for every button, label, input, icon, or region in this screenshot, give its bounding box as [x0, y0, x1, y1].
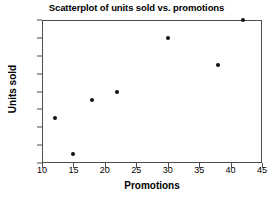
x-axis-title: Promotions [42, 180, 262, 192]
data-point [90, 98, 94, 102]
data-point [216, 63, 220, 67]
plot-data-area [42, 20, 262, 163]
x-tick-mark-25 [136, 163, 137, 168]
x-tick-mark-30 [168, 163, 169, 168]
x-tick-mark-35 [199, 163, 200, 168]
chart-title: Scatterplot of units sold vs. promotions [0, 2, 273, 14]
data-point [241, 18, 245, 22]
y-axis-title: Units sold [7, 39, 19, 139]
x-tick-mark-15 [73, 163, 74, 168]
x-tick-mark-45 [262, 163, 263, 168]
data-point [166, 36, 170, 40]
data-point [71, 152, 75, 156]
x-tick-mark-10 [42, 163, 43, 168]
x-tick-mark-20 [105, 163, 106, 168]
data-point [53, 116, 57, 120]
x-tick-label-45: 45 [247, 166, 273, 175]
data-point [115, 90, 119, 94]
x-tick-mark-40 [231, 163, 232, 168]
scatterplot-figure: Scatterplot of units sold vs. promotions… [0, 0, 273, 202]
